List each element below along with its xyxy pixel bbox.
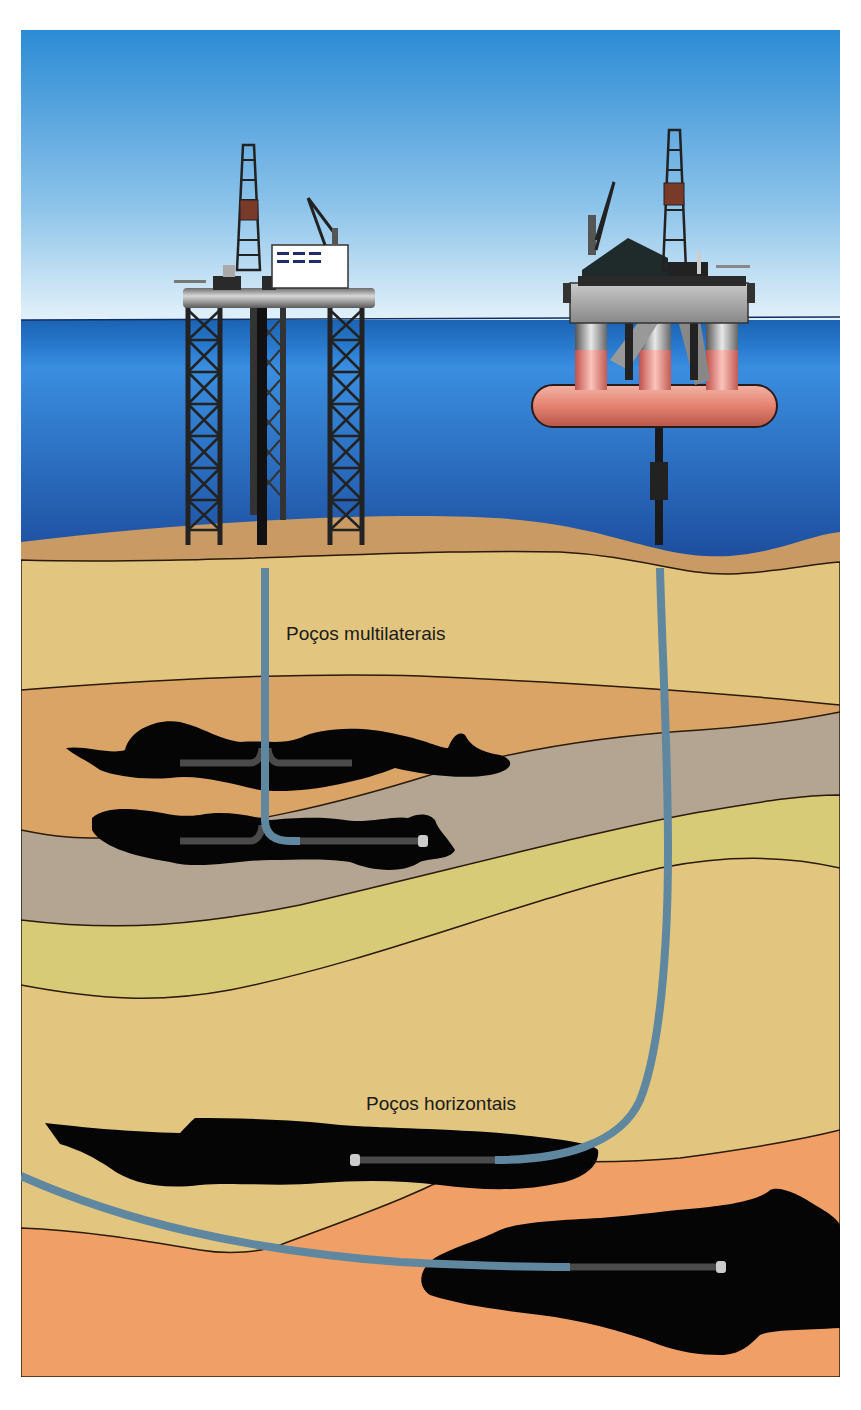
horizontal-wells-label: Poços horizontais <box>366 1093 516 1114</box>
oil-well-diagram: Poços multilaterais Poços horizontais <box>0 0 861 1410</box>
drill-bit-icon <box>418 835 428 847</box>
accommodation-module <box>272 245 348 288</box>
drill-bit-icon <box>350 1154 360 1166</box>
multilateral-wells-label: Poços multilaterais <box>286 623 445 644</box>
drill-bit-icon <box>716 1261 726 1273</box>
